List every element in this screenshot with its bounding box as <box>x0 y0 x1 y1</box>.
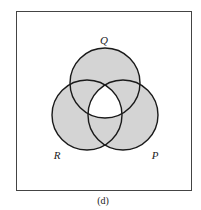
venn-diagram: Q R P (d) <box>0 0 201 210</box>
figure-caption: (d) <box>97 195 109 207</box>
set-q-label: Q <box>100 34 108 46</box>
set-p-label: P <box>151 149 159 161</box>
set-r-label: R <box>53 149 61 161</box>
